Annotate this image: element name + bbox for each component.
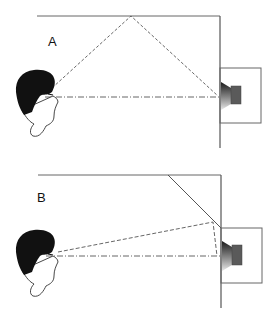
panel-a: A [16, 16, 261, 148]
speaker-magnet-b [232, 245, 242, 265]
speaker-cone-a [221, 82, 231, 110]
eye-b [48, 254, 53, 255]
reflected-path-a [52, 16, 218, 96]
reflected-path-b [58, 222, 217, 256]
listener-head-b [16, 230, 58, 297]
listener-head-a [16, 70, 58, 137]
panel-label-b: B [37, 190, 46, 205]
panel-b: B [16, 175, 262, 308]
speaker-reflection-diagram: A B [0, 0, 280, 327]
angled-deflector-b [168, 175, 221, 228]
eye-a [48, 94, 53, 95]
panel-label-a: A [48, 34, 57, 49]
speaker-cone-b [222, 241, 232, 271]
speaker-magnet-a [231, 86, 241, 104]
